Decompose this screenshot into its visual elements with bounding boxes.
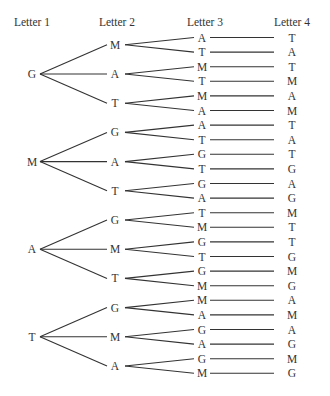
letter-2-node: G — [110, 302, 120, 314]
letter-4-node: A — [287, 46, 297, 58]
letter-1-node: A — [27, 243, 37, 255]
letter-3-node: G — [197, 324, 207, 336]
letter-4-node: T — [287, 236, 296, 248]
letter-4-node: T — [287, 221, 296, 233]
letter-4-node: A — [287, 178, 297, 190]
letter-3-node: T — [197, 134, 206, 146]
letter-3-node: A — [197, 32, 207, 44]
letter-4-node: T — [287, 148, 296, 160]
letter-3-node: M — [196, 294, 208, 306]
letter-3-node: G — [197, 236, 207, 248]
letter-3-node: M — [196, 90, 208, 102]
letter-1-node: G — [27, 68, 37, 80]
letter-3-node: A — [197, 192, 207, 204]
letter-2-node: M — [109, 39, 121, 51]
letter-2-node: A — [110, 360, 120, 372]
letter-2-node: G — [110, 126, 120, 138]
letter-3-node: M — [196, 280, 208, 292]
letter-4-node: G — [287, 280, 297, 292]
letter-4-node: A — [287, 324, 297, 336]
letter-4-node: M — [286, 75, 298, 87]
letter-4-node: G — [287, 367, 297, 379]
letter-4-node: M — [286, 207, 298, 219]
letter-3-node: T — [197, 75, 206, 87]
letter-4-node: T — [287, 61, 296, 73]
letter-4-node: M — [286, 353, 298, 365]
letter-2-node: T — [110, 185, 119, 197]
letter-3-node: T — [197, 207, 206, 219]
letter-3-node: A — [197, 338, 207, 350]
letter-1-node: M — [26, 156, 38, 168]
letter-3-node: G — [197, 265, 207, 277]
letter-2-node: M — [109, 243, 121, 255]
letter-3-node: T — [197, 46, 206, 58]
letter-4-node: T — [287, 32, 296, 44]
letter-3-node: A — [197, 309, 207, 321]
letter-3-node: T — [197, 251, 206, 263]
letter-4-node: G — [287, 338, 297, 350]
letter-2-node: T — [110, 97, 119, 109]
letter-3-node: T — [197, 163, 206, 175]
letter-3-node: M — [196, 61, 208, 73]
letter-4-node: G — [287, 192, 297, 204]
letter-4-node: A — [287, 134, 297, 146]
letter-4-node: G — [287, 251, 297, 263]
letter-2-node: G — [110, 214, 120, 226]
letter-4-node: A — [287, 294, 297, 306]
letter-4-node: M — [286, 105, 298, 117]
letter-3-node: G — [197, 178, 207, 190]
letter-4-node: T — [287, 119, 296, 131]
letter-2-node: M — [109, 331, 121, 343]
letter-3-node: M — [196, 221, 208, 233]
letter-4-node: M — [286, 309, 298, 321]
letter-3-node: A — [197, 105, 207, 117]
letter-3-node: M — [196, 367, 208, 379]
letter-1-node: T — [27, 331, 36, 343]
tree-diagram-lines — [0, 0, 330, 396]
letter-2-node: A — [110, 156, 120, 168]
letter-4-node: M — [286, 265, 298, 277]
letter-4-node: A — [287, 90, 297, 102]
letter-2-node: T — [110, 272, 119, 284]
letter-4-node: G — [287, 163, 297, 175]
letter-3-node: G — [197, 353, 207, 365]
letter-2-node: A — [110, 68, 120, 80]
letter-3-node: A — [197, 119, 207, 131]
letter-3-node: G — [197, 148, 207, 160]
